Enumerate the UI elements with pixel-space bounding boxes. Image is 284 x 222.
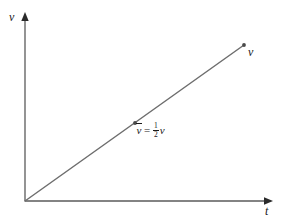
- instantaneous-velocity-variable: v: [160, 125, 165, 136]
- velocity-time-graph: v t v v = 1 2 v: [0, 0, 284, 222]
- graph-canvas: [0, 0, 284, 222]
- endpoint-marker: [242, 43, 246, 47]
- one-half-fraction: 1 2: [153, 122, 159, 139]
- equals-sign: =: [144, 125, 150, 136]
- fraction-numerator: 1: [153, 122, 159, 130]
- endpoint-label: v: [248, 46, 253, 58]
- fraction-denominator: 2: [153, 130, 159, 139]
- y-axis-arrow-icon: [21, 12, 28, 21]
- average-velocity-annotation: v = 1 2 v: [136, 122, 165, 139]
- y-axis-label: v: [9, 11, 14, 23]
- x-axis-label: t: [265, 205, 268, 217]
- average-velocity-symbol: v: [136, 125, 142, 136]
